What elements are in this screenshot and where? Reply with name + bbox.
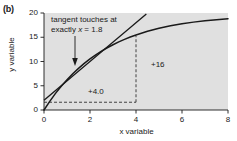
tangent-annotation-line2: exactly x = 1.8 (51, 25, 117, 35)
tangent-annotation-suffix: = 1.8 (82, 25, 102, 34)
y-axis-ticks (41, 13, 45, 110)
x-axis-ticks (44, 110, 228, 114)
tangent-annotation-line1: tangent touches at (51, 15, 117, 25)
tangent-annotation-prefix: exactly (51, 25, 78, 34)
y-axis-title: y variable (7, 25, 16, 85)
figure-panel-b: (b) (0, 0, 237, 141)
chart-plot-area (0, 0, 237, 141)
x-axis-title: x variable (44, 127, 229, 136)
tangent-annotation: tangent touches at exactly x = 1.8 (51, 15, 117, 35)
rise-measure-label: +16 (151, 60, 165, 69)
run-measure-label: +4.0 (88, 87, 104, 96)
